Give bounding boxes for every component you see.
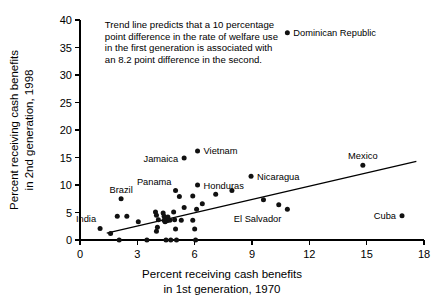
data-point-jamaica xyxy=(182,156,187,161)
data-point xyxy=(115,214,120,219)
point-label-jamaica: Jamaica xyxy=(144,154,179,164)
data-point xyxy=(154,229,159,234)
x-tick-label: 0 xyxy=(77,248,83,260)
chart-canvas: 05101520253035400369121518Percent receiv… xyxy=(0,0,444,308)
data-point-cuba xyxy=(400,213,405,218)
data-point xyxy=(261,197,266,202)
x-tick-label: 9 xyxy=(249,248,255,260)
data-point xyxy=(172,217,177,222)
data-point xyxy=(179,218,184,223)
data-point xyxy=(190,218,195,223)
data-point-india xyxy=(98,226,103,231)
data-point xyxy=(168,238,173,243)
data-point-el-salvador xyxy=(285,207,290,212)
point-label-vietnam: Vietnam xyxy=(204,146,238,156)
point-label-cuba: Cuba xyxy=(374,211,397,221)
data-point xyxy=(108,231,113,236)
data-point-brazil xyxy=(119,196,124,201)
y-tick-label: 30 xyxy=(60,69,72,81)
point-label-mexico: Mexico xyxy=(348,151,377,161)
y-tick-label: 15 xyxy=(60,152,72,164)
data-point xyxy=(182,205,187,210)
x-axis-title-line2: in 1st generation, 1970 xyxy=(163,283,280,295)
data-point xyxy=(124,214,129,219)
data-point xyxy=(164,238,169,243)
y-tick-label: 35 xyxy=(60,42,72,54)
point-label-india: India xyxy=(76,214,97,224)
data-point xyxy=(194,207,199,212)
y-tick-label: 5 xyxy=(66,207,72,219)
annotation-line-1: Trend line predicts that a 10 percentage xyxy=(105,19,274,30)
data-point-honduras xyxy=(195,183,200,188)
scatter-plot-figure: 05101520253035400369121518Percent receiv… xyxy=(0,0,444,308)
point-label-panama: Panama xyxy=(137,177,172,187)
y-tick-label: 20 xyxy=(60,124,72,136)
y-axis-title-line1: Percent receiving cash benefits xyxy=(8,50,20,210)
data-point xyxy=(192,227,197,232)
data-point xyxy=(177,194,182,199)
data-point xyxy=(156,217,161,222)
data-point xyxy=(154,213,159,218)
data-point xyxy=(174,238,179,243)
data-point xyxy=(173,227,178,232)
y-tick-label: 10 xyxy=(60,179,72,191)
data-point-mexico xyxy=(360,163,365,168)
x-tick-label: 12 xyxy=(303,248,315,260)
data-point-panama xyxy=(173,188,178,193)
y-tick-label: 25 xyxy=(60,97,72,109)
x-tick-label: 6 xyxy=(192,248,198,260)
y-axis-title-line2: in 2nd generation, 1998 xyxy=(23,70,35,191)
data-point xyxy=(193,238,198,243)
data-point xyxy=(144,238,149,243)
data-point-nicaragua xyxy=(249,174,254,179)
x-tick-label: 3 xyxy=(134,248,140,260)
point-label-el-salvador: El Salvador xyxy=(234,214,282,224)
y-tick-label: 40 xyxy=(60,14,72,26)
data-point xyxy=(200,201,205,206)
x-axis-title-line1: Percent receiving cash benefits xyxy=(142,268,302,280)
data-point xyxy=(276,202,281,207)
data-point xyxy=(171,209,176,214)
data-point-dominican-republic xyxy=(285,30,290,35)
point-label-honduras: Honduras xyxy=(204,181,245,191)
point-label-brazil: Brazil xyxy=(109,185,132,195)
data-point xyxy=(213,192,218,197)
data-point-vietnam xyxy=(195,148,200,153)
annotation-line-4: an 8.2 point difference in the second. xyxy=(105,54,262,65)
data-point xyxy=(117,238,122,243)
annotation-line-3: in the first generation is associated wi… xyxy=(105,42,272,53)
x-tick-label: 15 xyxy=(361,248,373,260)
annotation-line-2: point difference in the rate of welfare … xyxy=(105,31,278,42)
data-point xyxy=(190,194,195,199)
point-label-dominican-republic: Dominican Republic xyxy=(293,28,376,38)
point-label-nicaragua: Nicaragua xyxy=(257,172,300,182)
y-tick-label: 0 xyxy=(66,234,72,246)
x-tick-label: 18 xyxy=(418,248,430,260)
data-point xyxy=(136,219,141,224)
data-point xyxy=(167,218,172,223)
